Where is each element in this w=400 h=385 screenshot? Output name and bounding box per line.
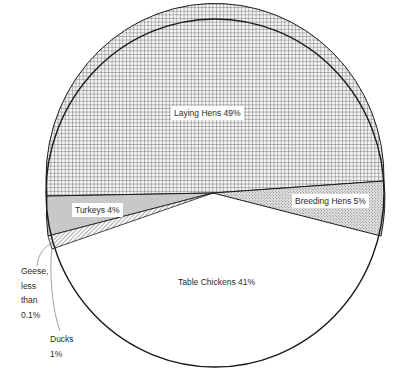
label-breeding-hens: Breeding Hens 5% (292, 194, 369, 208)
geese-line-2: less (21, 279, 48, 294)
label-geese: Geese, less than 0.1% (21, 264, 48, 322)
label-laying-hens: Laying Hens 49% (171, 106, 244, 120)
label-table-chickens: Table Chickens 41% (178, 277, 255, 287)
ducks-line-1: Ducks (50, 332, 74, 347)
geese-line-4: 0.1% (21, 308, 48, 323)
label-ducks: Ducks 1% (50, 332, 74, 361)
slice-laying-hens (46, 3, 384, 196)
geese-line-3: than (21, 293, 48, 308)
label-turkeys: Turkeys 4% (72, 203, 123, 217)
geese-line-1: Geese, (21, 264, 48, 279)
ducks-line-2: 1% (50, 347, 74, 362)
pie-chart (0, 0, 400, 385)
